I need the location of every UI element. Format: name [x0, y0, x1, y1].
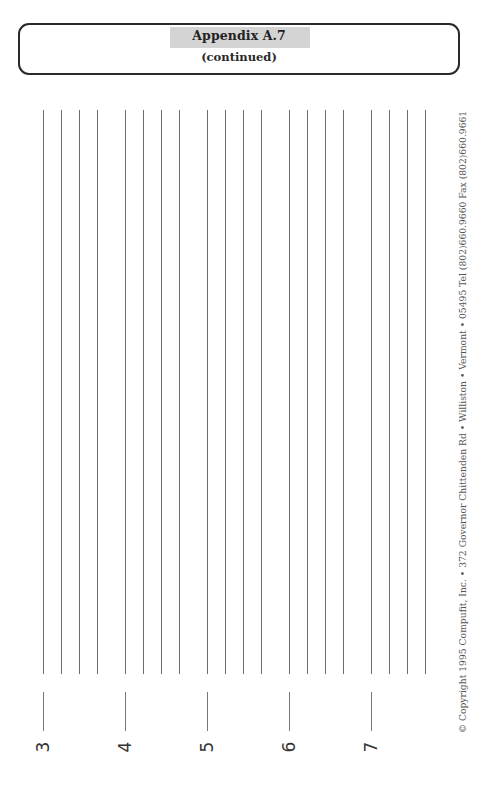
number-tick-line: [371, 692, 372, 731]
page-title: Appendix A.7: [20, 28, 458, 43]
row-number-label: 7: [361, 737, 381, 757]
writing-line: [207, 110, 208, 674]
writing-line: [79, 110, 80, 674]
writing-line: [97, 110, 98, 674]
row-number-label: 6: [279, 737, 299, 757]
writing-line: [143, 110, 144, 674]
writing-line: [225, 110, 226, 674]
writing-line: [179, 110, 180, 674]
number-tick-line: [125, 692, 126, 731]
writing-line: [325, 110, 326, 674]
appendix-header-box: Appendix A.7 (continued): [18, 23, 460, 75]
page-subtitle: (continued): [20, 50, 458, 64]
writing-line: [289, 110, 290, 674]
writing-line: [61, 110, 62, 674]
writing-line: [407, 110, 408, 674]
number-tick-line: [43, 692, 44, 731]
number-tick-line: [289, 692, 290, 731]
row-number-label: 3: [33, 737, 53, 757]
writing-line: [161, 110, 162, 674]
number-tick-line: [207, 692, 208, 731]
writing-line: [389, 110, 390, 674]
writing-line: [125, 110, 126, 674]
writing-line: [343, 110, 344, 674]
copyright-footer: © Copyright 1995 Compufit, Inc. • 372 Go…: [456, 72, 470, 772]
writing-line: [261, 110, 262, 674]
writing-line: [243, 110, 244, 674]
row-number-label: 4: [115, 737, 135, 757]
row-number-label: 5: [197, 737, 217, 757]
writing-line: [425, 110, 426, 674]
writing-line: [371, 110, 372, 674]
writing-line: [43, 110, 44, 674]
writing-line: [307, 110, 308, 674]
